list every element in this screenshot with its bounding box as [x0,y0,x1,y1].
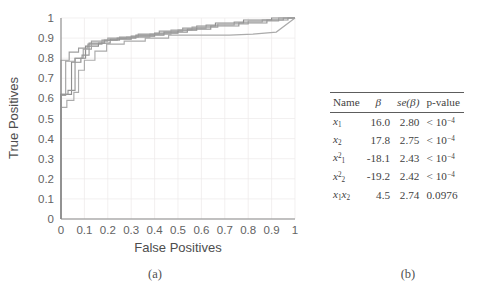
coefficient-table: Name β se(β) p-value x116.02.80< 10−4x21… [330,92,464,204]
y-axis-title: True Positives [6,77,21,159]
cell-se: 2.80 [394,112,423,131]
cell-pvalue: < 10−4 [423,168,464,186]
column-header-name: Name [330,93,364,113]
cell-pvalue: < 10−4 [423,112,464,131]
cell-beta: -19.2 [364,168,394,186]
cell-beta: -18.1 [364,149,394,167]
x-tick-label: 0.4 [147,224,164,236]
chart-gridlines [61,18,295,219]
roc-chart-panel: 00.10.20.30.40.50.60.70.80.91 00.10.20.3… [0,0,310,304]
x-tick-label: 0.2 [100,224,116,236]
y-tick-label: 0.2 [38,173,54,185]
column-header-se-text: se(β) [397,96,419,108]
x-tick-label: 0.8 [240,224,256,236]
cell-beta: 17.8 [364,131,394,149]
table-header-row: Name β se(β) p-value [330,93,464,113]
coefficient-table-panel: Name β se(β) p-value x116.02.80< 10−4x21… [330,92,483,204]
y-tick-label: 0.1 [38,193,54,205]
cell-pvalue: < 10−4 [423,131,464,149]
y-tick-label: 0.7 [38,72,54,84]
x-axis-title: False Positives [134,240,222,255]
column-header-se: se(β) [394,93,423,113]
table-row: x116.02.80< 10−4 [330,112,464,131]
column-header-beta: β [364,93,394,113]
table-body: x116.02.80< 10−4x217.82.75< 10−4x21-18.1… [330,112,464,204]
subfigure-caption-a: (a) [125,267,185,282]
x-tick-label: 0.5 [170,224,186,236]
cell-se: 2.42 [394,168,423,186]
cell-name: x21 [330,149,364,167]
x-tick-label: 0.9 [264,224,280,236]
table-row: x217.82.75< 10−4 [330,131,464,149]
table-header: Name β se(β) p-value [330,93,464,113]
cell-name: x22 [330,168,364,186]
cell-name: x1 [330,112,364,131]
cell-beta: 4.5 [364,186,394,204]
x-tick-label: 0.7 [217,224,233,236]
y-tick-label: 0.6 [38,92,54,104]
x-tick-label: 0.3 [123,224,139,236]
cell-name: x2 [330,131,364,149]
y-tick-label: 0.4 [38,133,55,145]
y-axis-tick-labels: 00.10.20.30.40.50.60.70.80.91 [38,12,55,225]
y-tick-label: 0.9 [38,32,54,44]
cell-se: 2.75 [394,131,423,149]
y-tick-label: 0.8 [38,52,54,64]
cell-se: 2.74 [394,186,423,204]
figure-root: 00.10.20.30.40.50.60.70.80.91 00.10.20.3… [0,0,483,304]
cell-se: 2.43 [394,149,423,167]
y-tick-label: 0.3 [38,153,54,165]
roc-chart-svg: 00.10.20.30.40.50.60.70.80.91 00.10.20.3… [0,0,310,260]
x-tick-label: 0.6 [193,224,209,236]
cell-pvalue: 0.0976 [423,186,464,204]
y-tick-label: 1 [48,12,54,24]
table-row: x1x24.52.740.0976 [330,186,464,204]
y-tick-label: 0.5 [38,113,54,125]
x-axis-tick-labels: 00.10.20.30.40.50.60.70.80.91 [58,224,298,236]
x-tick-label: 0.1 [76,224,92,236]
cell-pvalue: < 10−4 [423,149,464,167]
cell-beta: 16.0 [364,112,394,131]
x-tick-label: 1 [292,224,298,236]
table-row: x21-18.12.43< 10−4 [330,149,464,167]
subfigure-caption-b: (b) [378,267,438,282]
y-tick-label: 0 [48,213,54,225]
x-tick-label: 0 [58,224,64,236]
table-row: x22-19.22.42< 10−4 [330,168,464,186]
cell-name: x1x2 [330,186,364,204]
column-header-pvalue: p-value [423,93,464,113]
